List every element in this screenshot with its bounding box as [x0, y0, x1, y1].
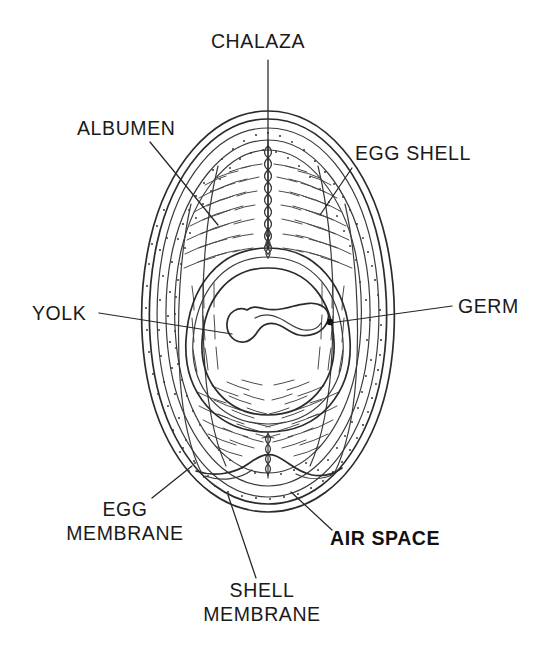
- label-chalaza: CHALAZA: [211, 30, 305, 52]
- germ-blob: [227, 303, 333, 342]
- germ-point-marker: [327, 319, 333, 325]
- air-cell: [196, 455, 342, 480]
- label-egg-shell: EGG SHELL: [355, 142, 471, 164]
- leader-egg-membrane: [152, 466, 192, 498]
- leader-air-space: [291, 492, 332, 530]
- svg-text:EGG: EGG: [102, 498, 147, 520]
- label-germ: GERM: [458, 295, 519, 317]
- label-albumen: ALBUMEN: [77, 117, 175, 139]
- svg-text:SHELL: SHELL: [230, 579, 295, 601]
- label-shell-membrane: SHELL MEMBRANE: [203, 579, 320, 625]
- yolk-body: [186, 248, 350, 432]
- label-air-space: AIR SPACE: [330, 527, 440, 549]
- label-egg-membrane: EGG MEMBRANE: [66, 498, 183, 544]
- egg-anatomy-diagram: CHALAZA ALBUMEN EGG SHELL YOLK GERM EGG …: [0, 0, 545, 659]
- leader-germ: [330, 306, 452, 323]
- svg-text:MEMBRANE: MEMBRANE: [203, 603, 320, 625]
- egg-cross-section-illustration: CHALAZA ALBUMEN EGG SHELL YOLK GERM EGG …: [0, 0, 545, 659]
- svg-text:MEMBRANE: MEMBRANE: [66, 522, 183, 544]
- label-yolk: YOLK: [32, 302, 86, 324]
